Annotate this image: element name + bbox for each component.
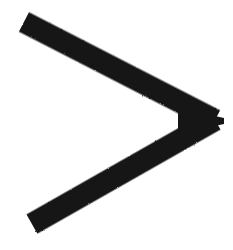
chevron-upper-arm: [24, 22, 215, 120]
ink-layer: [0, 0, 233, 250]
ink-speck: [40, 218, 42, 220]
ink-speck: [95, 184, 97, 186]
ink-speck: [56, 46, 58, 48]
ink-speck: [204, 121, 206, 123]
ink-speck: [83, 191, 85, 193]
ink-speck: [131, 163, 133, 165]
ink-speck: [149, 96, 151, 98]
ink-speck: [103, 71, 105, 73]
ink-speck: [35, 30, 37, 32]
chevron-lower-arm: [32, 120, 215, 224]
ink-speck: [169, 142, 172, 145]
ink-speck: [187, 114, 190, 117]
ink-speck: [195, 128, 198, 131]
ink-speck: [49, 211, 52, 214]
ink-speck: [114, 77, 116, 79]
ink-speck: [161, 102, 163, 104]
ink-speck: [90, 64, 93, 67]
ink-speck: [67, 51, 69, 53]
ink-speck: [137, 89, 140, 92]
ink-speck: [45, 40, 48, 43]
drawing-canvas: [0, 0, 233, 250]
chevron-stroke-group: [24, 22, 224, 224]
ink-speck: [144, 156, 146, 158]
ink-speck: [71, 198, 74, 201]
ink-speck: [118, 169, 121, 172]
